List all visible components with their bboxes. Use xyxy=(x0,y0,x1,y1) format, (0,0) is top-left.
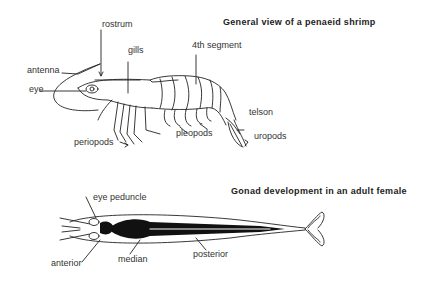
label-telson: telson xyxy=(249,107,273,117)
label-pleopods: pleopods xyxy=(176,128,213,138)
label-eye: eye xyxy=(29,84,44,94)
label-periopods: periopods xyxy=(74,137,114,147)
label-rostrum: rostrum xyxy=(102,19,133,29)
label-posterior: posterior xyxy=(193,249,228,259)
label-anterior: anterior xyxy=(51,258,82,268)
shrimp-side-view xyxy=(54,64,246,147)
label-4th-segment: 4th segment xyxy=(192,40,242,50)
figure-2-title: Gonad development in an adult female xyxy=(231,186,407,196)
label-uropods: uropods xyxy=(254,131,287,141)
label-median: median xyxy=(118,254,148,264)
label-eye-peduncle: eye peduncle xyxy=(93,192,147,202)
figure-1-title: General view of a penaeid shrimp xyxy=(223,17,376,27)
label-gills: gills xyxy=(128,45,144,55)
label-antenna: antenna xyxy=(27,65,60,75)
